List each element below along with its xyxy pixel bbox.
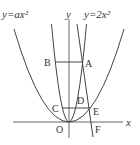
label-y-axis: y <box>65 8 71 20</box>
label-curve-wide: y=ax² <box>1 8 29 20</box>
label-origin-O: O <box>56 124 63 135</box>
label-point-F: F <box>95 124 101 135</box>
label-curve-narrow: y=2x² <box>83 8 111 20</box>
parabola-diagram: y=ax² y=2x² y x B A C D E O F <box>0 0 140 145</box>
label-point-B: B <box>44 57 51 68</box>
label-point-E: E <box>93 106 99 117</box>
label-point-D: D <box>77 95 84 106</box>
label-point-C: C <box>52 103 59 114</box>
label-point-A: A <box>85 58 93 69</box>
label-x-axis: x <box>125 116 131 128</box>
